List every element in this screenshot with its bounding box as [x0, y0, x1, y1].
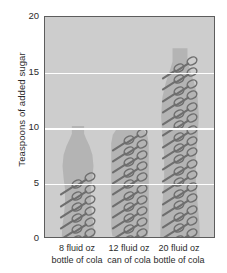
sugar-pictogram-chart: Teaspoons of added sugar 20 15 10 5 0 8 … [0, 0, 227, 273]
x-axis-label-line1: 20 fluid oz [147, 243, 211, 255]
x-axis-label-20oz-bottle: 20 fluid oz bottle of cola [147, 243, 211, 266]
spoon-stack-8oz [60, 170, 96, 237]
x-axis-label-line2: bottle of cola [147, 255, 211, 267]
spoon-row [110, 131, 150, 142]
spoon-stack-12oz [110, 126, 150, 237]
gridline-10 [45, 128, 214, 130]
y-tick-label-10: 10 [15, 122, 39, 132]
y-tick-label-20: 20 [15, 11, 39, 21]
plot-area [44, 16, 215, 238]
gridline-15 [45, 73, 214, 75]
chart-column-8oz-bottle [60, 17, 96, 237]
chart-column-12oz-can [110, 17, 150, 237]
y-tick-label-15: 15 [15, 67, 39, 77]
gridline-5 [45, 184, 214, 186]
spoon-row [158, 59, 202, 70]
y-tick-label-0: 0 [15, 233, 39, 243]
spoon-stack-20oz [158, 54, 202, 237]
teaspoon-icon [71, 171, 97, 191]
chart-column-20oz-bottle [158, 17, 202, 237]
teaspoon-icon [123, 127, 149, 147]
y-tick-label-5: 5 [15, 178, 39, 188]
